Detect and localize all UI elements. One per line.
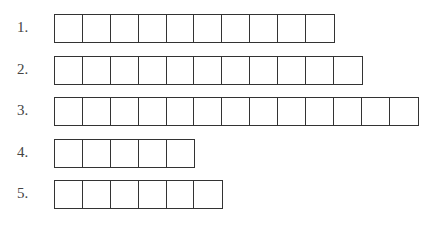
box-cell — [167, 181, 195, 208]
box-cell — [222, 15, 250, 42]
box-cell — [194, 15, 222, 42]
row-number-label: 4. — [17, 144, 28, 161]
box-cell — [194, 181, 222, 208]
box-strip — [54, 14, 335, 43]
box-cell — [222, 57, 250, 84]
box-cell — [55, 140, 83, 167]
box-cell — [390, 98, 418, 125]
row-number-label: 2. — [17, 61, 28, 78]
box-cell — [362, 98, 390, 125]
box-cell — [83, 98, 111, 125]
box-cell — [139, 98, 167, 125]
box-strip — [54, 56, 363, 85]
box-strip — [54, 97, 419, 126]
row-number-label: 5. — [17, 185, 28, 202]
box-cell — [139, 181, 167, 208]
box-cell — [167, 15, 195, 42]
box-cell — [55, 15, 83, 42]
box-cell — [250, 98, 278, 125]
box-cell — [55, 181, 83, 208]
box-cell — [83, 15, 111, 42]
box-cell — [250, 57, 278, 84]
row-number-label: 3. — [17, 102, 28, 119]
row-number-label: 1. — [17, 19, 28, 36]
box-cell — [278, 57, 306, 84]
box-cell — [55, 57, 83, 84]
box-cell — [306, 15, 334, 42]
box-cell — [83, 140, 111, 167]
box-cell — [167, 98, 195, 125]
box-cell — [83, 57, 111, 84]
box-cell — [167, 140, 195, 167]
box-cell — [111, 15, 139, 42]
box-cell — [250, 15, 278, 42]
box-cell — [139, 15, 167, 42]
box-cell — [139, 57, 167, 84]
box-cell — [334, 98, 362, 125]
box-cell — [111, 98, 139, 125]
box-strip — [54, 139, 195, 168]
box-strip — [54, 180, 223, 209]
box-cell — [278, 15, 306, 42]
box-cell — [306, 98, 334, 125]
box-cell — [111, 181, 139, 208]
box-cell — [83, 181, 111, 208]
box-cell — [194, 98, 222, 125]
box-cell — [111, 57, 139, 84]
box-cell — [167, 57, 195, 84]
box-cell — [55, 98, 83, 125]
box-cell — [194, 57, 222, 84]
box-cell — [334, 57, 362, 84]
box-cell — [222, 98, 250, 125]
box-cell — [139, 140, 167, 167]
box-cell — [111, 140, 139, 167]
box-cell — [278, 98, 306, 125]
box-cell — [306, 57, 334, 84]
